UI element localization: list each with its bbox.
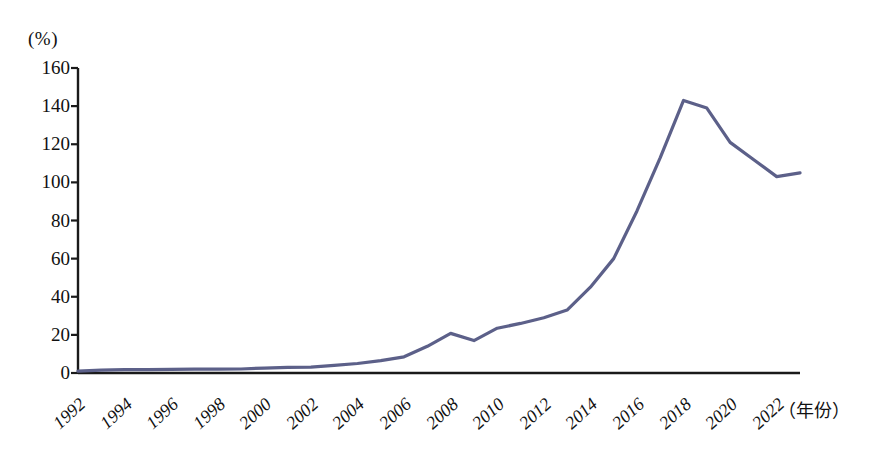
data-series-group: [78, 100, 800, 371]
data-line-series-1: [78, 100, 800, 371]
axes-group: [71, 68, 800, 373]
plot-area: [0, 0, 871, 451]
chart-container: (%) （年份） 020406080100120140160 199219941…: [0, 0, 871, 451]
